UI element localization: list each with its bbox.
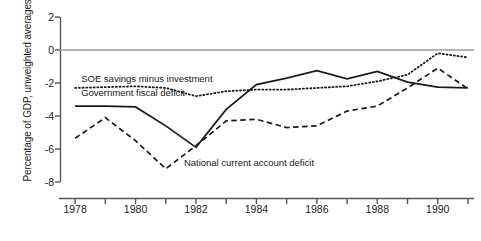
x-tick-label: 1984 (236, 203, 276, 215)
x-tick-label: 1982 (176, 203, 216, 215)
x-tick-label: 1980 (116, 203, 156, 215)
chart-axes (55, 17, 474, 204)
x-tick-label: 1986 (297, 203, 337, 215)
annotation-government-fiscal-deficit: Government fiscal deficit (81, 87, 185, 98)
y-axis-ticks (55, 17, 60, 182)
x-axis-tick-labels: 1978 1980 1982 1984 1986 1988 1990 (0, 203, 481, 223)
x-tick-label: 1978 (55, 203, 95, 215)
x-tick-label: 1990 (418, 203, 458, 215)
chart-series-layer (75, 53, 468, 169)
chart-figure: Percentage of GDP, unweighted averages 2… (0, 0, 481, 241)
annotation-soe-savings-minus-investment: SOE savings minus investment (81, 73, 212, 84)
annotation-national-current-account-deficit: National current account deficit (184, 157, 314, 168)
x-tick-label: 1988 (357, 203, 397, 215)
